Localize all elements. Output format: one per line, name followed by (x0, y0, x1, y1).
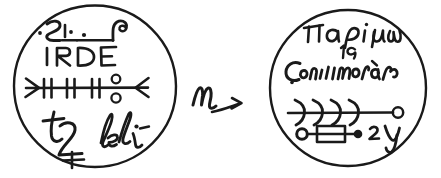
diagram-canvas: IRDE ħ₂₊ lehi m παριμω 19 Conimoràr 2y (0, 0, 441, 178)
transition-connector (193, 88, 242, 112)
right-circle-cursive-text (286, 61, 397, 84)
left-circle-tick-axis (26, 75, 149, 103)
left-circle-caps-label (47, 47, 116, 66)
right-circle-chevron-axis (288, 100, 403, 125)
right-circle-number (341, 46, 355, 59)
right-circle-capacitor-row (297, 126, 400, 152)
right-circle-greek-text (304, 23, 401, 48)
ink-layer (0, 0, 441, 178)
left-circle-top-script (38, 21, 127, 41)
